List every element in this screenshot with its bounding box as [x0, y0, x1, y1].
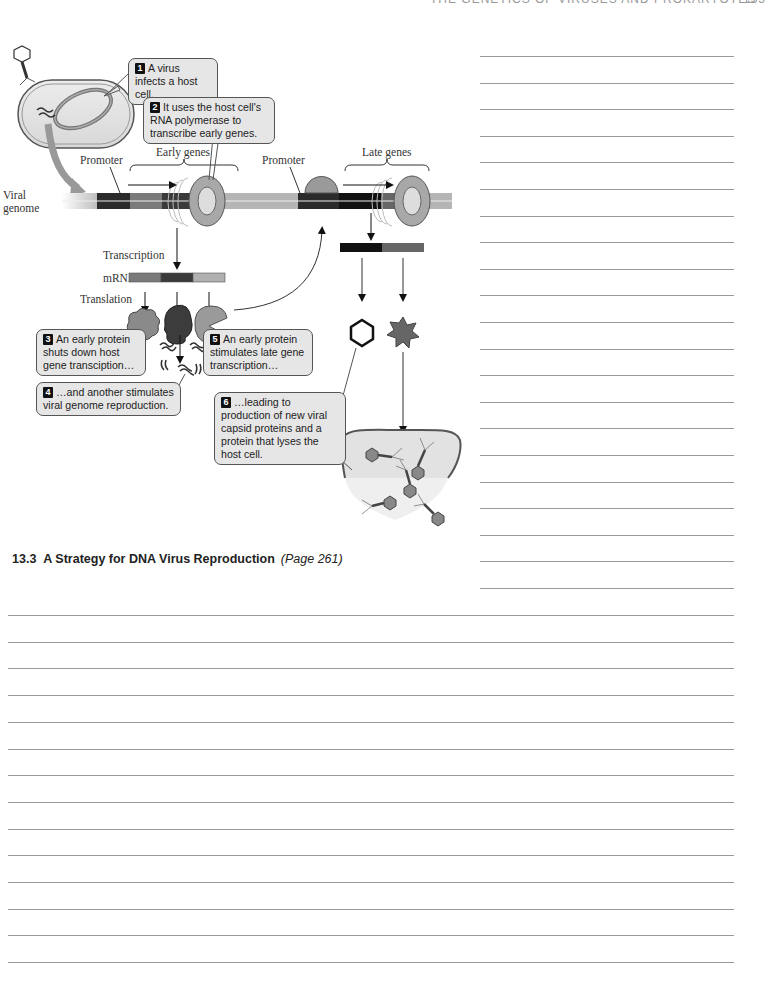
answer-line[interactable] [480, 455, 734, 456]
answer-line[interactable] [8, 909, 734, 910]
answer-line[interactable] [480, 349, 734, 350]
answer-line[interactable] [8, 962, 734, 963]
answer-line[interactable] [480, 295, 734, 296]
section-title-text: A Strategy for DNA Virus Reproduction [43, 552, 275, 566]
activator-protein-icon [305, 177, 338, 194]
callout-text: It uses the host cell's RNA polymerase t… [150, 101, 261, 139]
step-number-badge: 1 [135, 63, 145, 74]
callout-3: 3An early protein shuts down host gene t… [36, 329, 146, 376]
step-number-badge: 5 [210, 334, 220, 345]
svg-text:Transcription: Transcription [103, 249, 165, 262]
step-number-badge: 6 [221, 397, 231, 408]
callout-text: An early protein shuts down host gene tr… [43, 333, 134, 371]
answer-line[interactable] [480, 109, 734, 110]
answer-line[interactable] [480, 535, 734, 536]
svg-text:Promoter: Promoter [80, 154, 123, 166]
answer-line[interactable] [480, 561, 734, 562]
late-genes-bracket [345, 159, 429, 171]
svg-text:Translation: Translation [80, 293, 132, 305]
answer-line[interactable] [480, 428, 734, 429]
early-genes-bracket [130, 159, 238, 171]
answer-line[interactable] [8, 855, 734, 856]
svg-text:Late genes: Late genes [362, 146, 412, 159]
section-heading: 13.3 A Strategy for DNA Virus Reproducti… [12, 552, 343, 566]
answer-line[interactable] [8, 829, 734, 830]
lysis-protein-icon [387, 317, 419, 348]
answer-line[interactable] [8, 642, 734, 643]
svg-text:Promoter: Promoter [262, 154, 305, 166]
answer-line[interactable] [8, 775, 734, 776]
running-head-title: THE GENETICS OF VIRUSES AND PROKARYOTES [430, 0, 756, 6]
answer-line[interactable] [480, 56, 734, 57]
callout-text: …leading to production of new viral caps… [221, 396, 327, 460]
early-protein-2-icon [164, 305, 192, 344]
answer-line[interactable] [480, 482, 734, 483]
callout-2: 2It uses the host cell's RNA polymerase … [143, 97, 275, 144]
callout-4: 4…and another stimulates viral genome re… [36, 382, 181, 416]
answer-line[interactable] [8, 668, 734, 669]
step-number-badge: 2 [150, 102, 160, 113]
answer-line[interactable] [8, 615, 734, 616]
answer-line[interactable] [480, 375, 734, 376]
answer-line[interactable] [8, 882, 734, 883]
answer-line[interactable] [480, 189, 734, 190]
capsid-protein-icon [351, 320, 373, 346]
lysing-host-cell-icon [342, 430, 461, 526]
bacteriophage-icon [14, 46, 35, 85]
viral-dna-fragments-icon [160, 343, 206, 375]
early-mrna-bar [129, 273, 225, 282]
answer-line[interactable] [480, 402, 734, 403]
answer-line[interactable] [480, 242, 734, 243]
answer-line[interactable] [480, 588, 734, 589]
page-reference: (Page 261) [281, 552, 343, 566]
callout-text: An early protein stimulates late gene tr… [210, 333, 304, 371]
dna-virus-reproduction-figure: Promoter Early genes Promoter Late genes… [0, 30, 470, 530]
answer-line[interactable] [8, 749, 734, 750]
answer-line[interactable] [480, 162, 734, 163]
answer-line[interactable] [8, 695, 734, 696]
svg-text:Viral: Viral [3, 189, 26, 201]
answer-line[interactable] [8, 802, 734, 803]
page-number: 155 [743, 0, 766, 6]
step-number-badge: 4 [43, 387, 53, 398]
section-number: 13.3 [12, 552, 36, 566]
late-mrna-bar [340, 243, 424, 252]
answer-line[interactable] [8, 935, 734, 936]
answer-line[interactable] [480, 322, 734, 323]
callout-6: 6…leading to production of new viral cap… [214, 392, 346, 465]
answer-line[interactable] [8, 722, 734, 723]
svg-text:Early genes: Early genes [156, 146, 210, 159]
answer-line[interactable] [480, 83, 734, 84]
running-head: THE GENETICS OF VIRUSES AND PROKARYOTES … [430, 0, 770, 6]
answer-line[interactable] [480, 136, 734, 137]
answer-line[interactable] [480, 508, 734, 509]
answer-line[interactable] [480, 216, 734, 217]
answer-line[interactable] [480, 269, 734, 270]
svg-text:genome: genome [3, 202, 39, 215]
step-number-badge: 3 [43, 334, 53, 345]
callout-5: 5An early protein stimulates late gene t… [203, 329, 313, 376]
callout-text: …and another stimulates viral genome rep… [43, 386, 174, 411]
